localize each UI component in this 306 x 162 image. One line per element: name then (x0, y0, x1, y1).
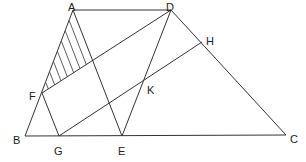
hatch-line (46, 83, 48, 89)
geometry-diagram: A D H K F B G E C (0, 0, 306, 162)
label-g: G (54, 145, 63, 157)
segment-ae (73, 10, 122, 136)
label-b: B (13, 134, 20, 146)
label-e: E (118, 145, 125, 157)
hatch-line (61, 41, 73, 73)
point-labels: A D H K F B G E C (13, 1, 298, 157)
hatched-triangle-afp (46, 20, 86, 89)
label-a: A (68, 1, 76, 13)
hatch-line (65, 31, 80, 69)
hatch-line (58, 52, 68, 77)
hatch-line (69, 20, 86, 64)
label-h: H (206, 35, 214, 47)
segment-gh (59, 42, 202, 136)
hatch-line (50, 72, 55, 85)
segment-fg (42, 93, 59, 136)
label-c: C (290, 133, 298, 145)
hatch-line (54, 62, 61, 81)
segment-dc (171, 10, 286, 135)
segment-bc (25, 135, 286, 136)
label-d: D (166, 1, 174, 13)
label-k: K (147, 84, 155, 96)
diagram-segments (25, 10, 286, 136)
label-f: F (29, 90, 36, 102)
segment-fd (42, 10, 171, 93)
segment-de (122, 10, 171, 136)
